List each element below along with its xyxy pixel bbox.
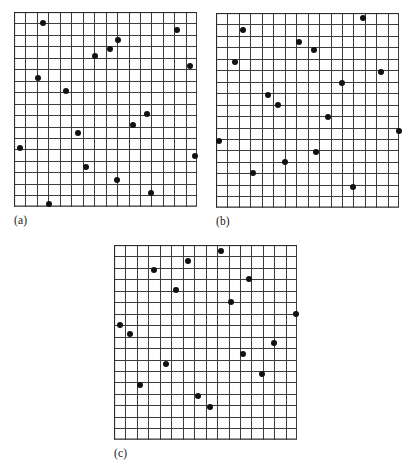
grid-c: [114, 245, 297, 440]
figure-container: (a)(b)(c): [0, 0, 416, 471]
grid-b: [216, 13, 399, 208]
quadrat-panel-c: [114, 245, 297, 440]
panel-label-c: (c): [114, 447, 127, 459]
quadrat-panel-b: [216, 13, 399, 208]
panel-label-b: (b): [216, 215, 230, 227]
panel-label-a: (a): [14, 214, 27, 226]
quadrat-panel-a: [14, 12, 197, 207]
grid-a: [14, 12, 197, 207]
